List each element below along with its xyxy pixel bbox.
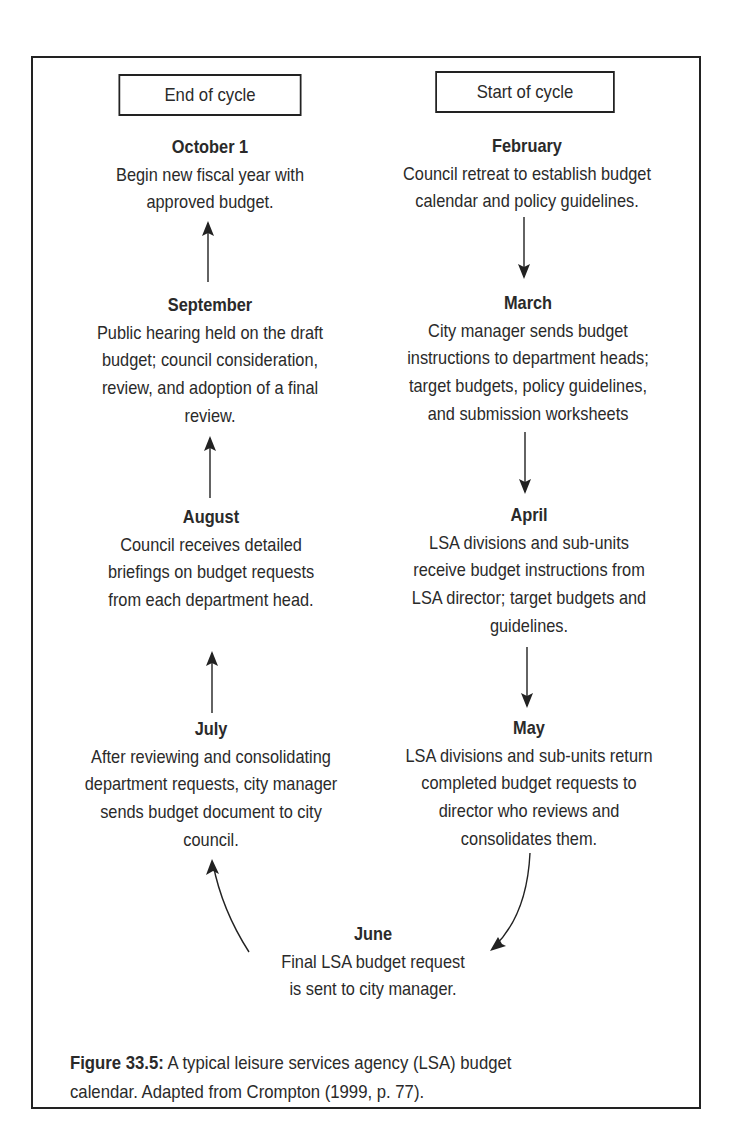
curved-arrow-icon: [206, 859, 249, 952]
arrow-down-icon: [521, 647, 533, 708]
figure-caption: Figure 33.5: A typical leisure services …: [70, 1048, 616, 1106]
caption-text-line1: A typical leisure services agency (LSA) …: [164, 1052, 512, 1073]
caption-label: Figure 33.5:: [70, 1052, 164, 1073]
arrow-down-icon: [519, 432, 531, 494]
arrow-up-icon: [204, 436, 216, 498]
caption-text-line2: calendar. Adapted from Crompton (1999, p…: [70, 1077, 616, 1106]
flow-arrows: [0, 0, 730, 1127]
curved-arrow-icon: [490, 853, 530, 951]
arrow-up-icon: [206, 651, 218, 713]
arrow-up-icon: [202, 221, 214, 282]
arrow-down-icon: [518, 217, 530, 279]
